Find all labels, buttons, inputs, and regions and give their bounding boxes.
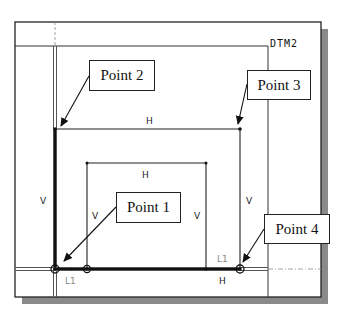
sketch-frame — [15, 22, 321, 297]
datum-label: DTM2 — [270, 38, 298, 49]
vertex-inner-tr[interactable] — [205, 162, 208, 165]
vertex-point-2[interactable] — [53, 127, 57, 131]
vertex-inner-br[interactable] — [205, 268, 208, 271]
callout-point-2: Point 2 — [89, 60, 155, 91]
callout-point-4-label: Point 4 — [276, 221, 319, 238]
callout-point-3-label: Point 3 — [258, 77, 301, 94]
constraint-h-outer-top: H — [146, 116, 153, 126]
callout-point-2-label: Point 2 — [101, 67, 144, 84]
callout-point-3: Point 3 — [247, 70, 311, 100]
constraint-v-outer-right: V — [246, 196, 253, 206]
constraint-l1-right: L1 — [217, 254, 228, 264]
constraint-h-inner-top: H — [142, 170, 149, 180]
vertex-mid-bottom[interactable] — [70, 268, 72, 270]
callout-point-1: Point 1 — [116, 192, 181, 223]
vertex-point-3[interactable] — [238, 127, 242, 131]
constraint-v-inner-right: V — [194, 211, 201, 221]
callout-point-4: Point 4 — [264, 214, 330, 244]
constraint-v-left: V — [40, 196, 47, 206]
constraint-v-inner-left: V — [92, 211, 99, 221]
callout-point-1-label: Point 1 — [127, 199, 170, 216]
constraint-l1-left: L1 — [65, 276, 76, 286]
sketch-canvas: DTM2 H H V V V V H L1 L1 — [0, 0, 338, 325]
vertex-inner-tl[interactable] — [86, 162, 89, 165]
constraint-h-bottom: H — [219, 276, 226, 286]
